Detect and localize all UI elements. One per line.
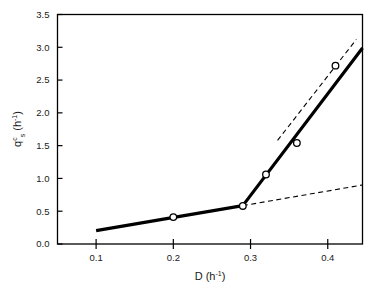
- y-tick-label: 1.0: [36, 173, 49, 184]
- y-tick-label: 2.5: [36, 74, 49, 85]
- data-point-marker: [263, 171, 270, 178]
- y-tick-label: 3.0: [36, 42, 49, 53]
- x-title-close: ): [222, 270, 226, 282]
- plot-frame: [58, 15, 363, 245]
- x-axis-tick-labels: 0.10.20.30.4: [89, 252, 334, 263]
- y-axis-tick-labels: 0.00.51.01.52.02.53.03.5: [36, 9, 49, 250]
- y-tick-label: 1.5: [36, 140, 49, 151]
- data-point-marker: [240, 203, 247, 210]
- x-tick-label: 0.3: [244, 252, 257, 263]
- y-tick-label: 2.0: [36, 107, 49, 118]
- y-title-superscript: c: [11, 137, 18, 141]
- y-tick-label: 0.5: [36, 206, 49, 217]
- x-tick-label: 0.2: [167, 252, 180, 263]
- x-tick-label: 0.1: [89, 252, 102, 263]
- x-tick-label: 0.4: [321, 252, 334, 263]
- chart-canvas: 0.00.51.01.52.02.53.03.5 0.10.20.30.4 qc…: [0, 0, 386, 293]
- y-tick-label: 0.0: [36, 238, 49, 249]
- x-title-base: D (h: [195, 270, 216, 282]
- x-axis-title: D (h-1): [195, 270, 226, 282]
- y-axis-title-text: qcs (h-1): [11, 111, 26, 147]
- y-tick-label: 3.5: [36, 9, 49, 20]
- y-axis-title: qcs (h-1): [11, 111, 26, 147]
- y-title-unit-close: ): [11, 111, 23, 115]
- data-point-marker: [294, 140, 301, 147]
- data-point-marker: [332, 62, 339, 69]
- data-point-marker: [170, 214, 177, 221]
- axes-frame: [58, 15, 363, 245]
- x-axis-title-text: D (h-1): [195, 270, 226, 282]
- y-title-unit-open: (h: [11, 121, 23, 134]
- chart-figure: 0.00.51.01.52.02.53.03.5 0.10.20.30.4 qc…: [0, 0, 386, 293]
